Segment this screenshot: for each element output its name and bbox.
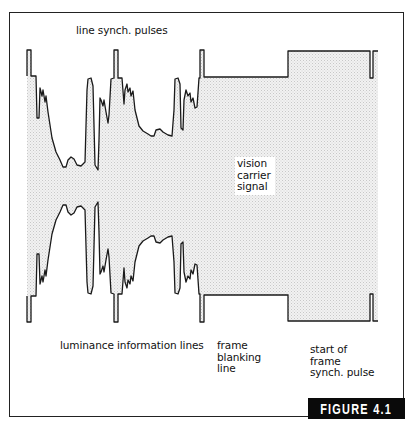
- frame-blanking-line-label: frame blanking line: [217, 340, 261, 375]
- start-of-frame-synch-pulse-label: start of frame synch. pulse: [310, 344, 374, 379]
- figure-number-text: FIGURE 4.1: [321, 401, 393, 417]
- figure-number-badge: FIGURE 4.1: [308, 398, 405, 419]
- vision-carrier-area: [27, 50, 378, 322]
- vision-carrier-signal-label: vision carrier signal: [235, 157, 275, 195]
- luminance-information-lines-label: luminance information lines: [60, 340, 204, 352]
- line-synch-pulses-label: line synch. pulses: [76, 25, 168, 37]
